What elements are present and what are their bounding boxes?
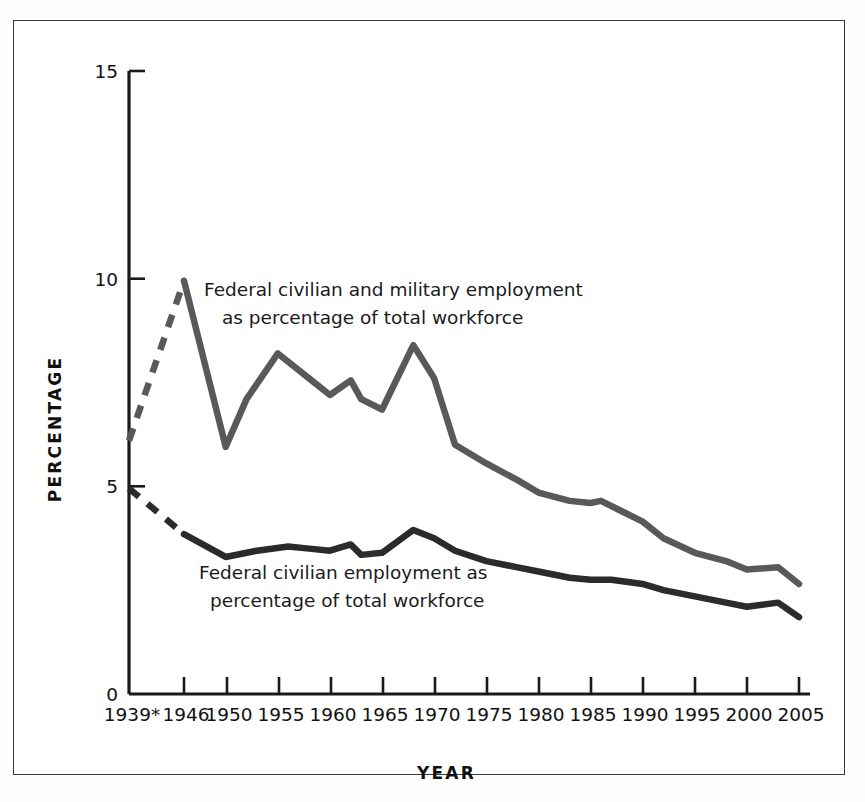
y-tick-label-10: 10: [94, 269, 118, 290]
y-tick-label-5: 5: [106, 476, 118, 497]
x-tick-label-1955: 1955: [257, 704, 304, 725]
annotation-civilian-line2: percentage of total workforce: [210, 590, 484, 611]
x-tick-label-1960: 1960: [309, 704, 356, 725]
x-tick-label-1980: 1980: [517, 704, 564, 725]
x-tick-label-1985: 1985: [569, 704, 616, 725]
series-0-dashed-segment: [129, 281, 184, 441]
x-tick-label-1975: 1975: [465, 704, 512, 725]
annotation-total-line2: as percentage of total workforce: [222, 307, 523, 328]
y-tick-marks: [129, 71, 145, 486]
x-tick-label-1965: 1965: [361, 704, 408, 725]
x-tick-marks: [184, 677, 799, 694]
x-tick-label-1970: 1970: [413, 704, 460, 725]
annotation-total-line1: Federal civilian and military employment: [204, 279, 583, 300]
annotation-civilian-employment: Federal civilian employment as percentag…: [199, 562, 488, 611]
x-axis-title: YEAR: [14, 763, 865, 783]
chart-frame: 15 10 5 0 1939* 1946: [13, 20, 845, 775]
y-tick-label-0: 0: [106, 684, 118, 705]
x-tick-label-1950: 1950: [205, 704, 252, 725]
chart-figure: 15 10 5 0 1939* 1946: [0, 0, 865, 802]
y-axis-title: PERCENTAGE: [45, 354, 65, 504]
x-tick-label-1990: 1990: [621, 704, 668, 725]
x-tick-label-2005: 2005: [777, 704, 824, 725]
x-tick-label-2000: 2000: [725, 704, 772, 725]
x-tick-label-1946: 1946: [162, 704, 209, 725]
x-tick-label-1995: 1995: [673, 704, 720, 725]
annotation-total-employment: Federal civilian and military employment…: [204, 279, 583, 328]
annotation-civilian-line1: Federal civilian employment as: [199, 562, 488, 583]
x-tick-label-1939: 1939*: [104, 704, 160, 725]
series-1-dashed-segment: [129, 488, 184, 534]
y-tick-label-15: 15: [94, 61, 118, 82]
chart-plot-area: 15 10 5 0 1939* 1946: [14, 21, 844, 773]
